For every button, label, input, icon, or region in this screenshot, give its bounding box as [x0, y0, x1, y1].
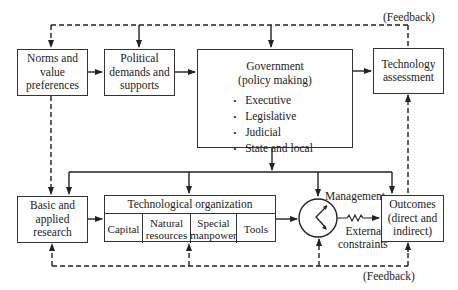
- node-basic-line: research: [33, 226, 71, 240]
- node-norms: Norms and value preferences: [17, 49, 88, 96]
- government-branch: State and local: [233, 141, 313, 157]
- node-outcomes-line: indirect): [393, 225, 432, 239]
- external-constraint-zigzag: [337, 215, 379, 221]
- node-political-line: supports: [120, 79, 159, 93]
- node-norms-line: value: [40, 66, 65, 80]
- government-branch: Legislative: [233, 109, 313, 125]
- government-title: Government: [246, 59, 303, 73]
- techorg-cell-text: Special: [197, 217, 229, 229]
- node-basic-line: applied: [36, 213, 70, 227]
- techorg-cell-text: Capital: [108, 223, 140, 235]
- node-norms-line: Norms and: [27, 52, 78, 66]
- management-label: Management: [325, 190, 385, 203]
- feedback-label-bottom: (Feedback): [363, 270, 415, 283]
- node-political-line: demands and: [109, 66, 169, 80]
- techorg-title: Technological organization: [105, 196, 275, 214]
- feedback-label-top: (Feedback): [383, 11, 435, 24]
- node-assessment-line: assessment: [383, 71, 434, 85]
- node-technological-organization: Technological organization Capital Natur…: [104, 195, 276, 242]
- node-norms-line: preferences: [26, 79, 79, 93]
- feedback-top-lines: [51, 25, 408, 47]
- techorg-cell-text: manpower: [190, 229, 236, 241]
- node-outcomes: Outcomes (direct and indirect): [381, 195, 444, 242]
- node-government: Government (policy making) Executive Leg…: [197, 49, 353, 148]
- techorg-cell-special-manpower: Special manpower: [191, 214, 237, 243]
- node-political: Political demands and supports: [104, 49, 175, 96]
- techorg-cell-text: Natural: [150, 217, 183, 229]
- techorg-cells: Capital Natural resources Special manpow…: [105, 214, 275, 243]
- management-circle: [299, 199, 337, 237]
- government-subtitle: (policy making): [238, 73, 312, 87]
- node-assessment-line: Technology: [381, 58, 435, 72]
- node-basic-line: Basic and: [30, 199, 75, 213]
- techorg-cell-capital: Capital: [105, 214, 143, 243]
- techorg-cell-natural-resources: Natural resources: [143, 214, 191, 243]
- node-political-line: Political: [120, 52, 158, 66]
- node-outcomes-line: (direct and: [388, 212, 438, 226]
- government-branch: Judicial: [233, 125, 313, 141]
- techorg-cell-text: resources: [146, 229, 188, 241]
- government-branches: Executive Legislative Judicial State and…: [233, 93, 313, 157]
- government-branch: Executive: [233, 93, 313, 109]
- techorg-cell-tools: Tools: [237, 214, 275, 243]
- techorg-cell-text: Tools: [244, 223, 268, 235]
- node-outcomes-line: Outcomes: [389, 198, 436, 212]
- node-basic-research: Basic and applied research: [17, 196, 88, 243]
- node-technology-assessment: Technology assessment: [373, 48, 444, 94]
